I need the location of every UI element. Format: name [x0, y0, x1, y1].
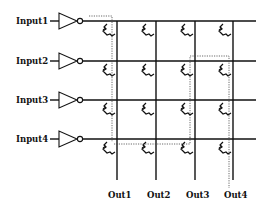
crosspoint-grid	[103, 24, 231, 154]
input-label: Input1	[16, 16, 48, 26]
input-label: Input3	[16, 95, 48, 105]
inverter-icon	[59, 53, 83, 69]
path-input2-out4	[190, 56, 229, 188]
input-label: Input2	[16, 56, 48, 66]
transistor-crosspoint-icon	[181, 64, 193, 76]
path-input4-out3	[114, 136, 190, 144]
output-label: Out4	[224, 190, 248, 200]
output-label: Out3	[186, 190, 210, 200]
output-label: Out2	[147, 190, 171, 200]
transistor-crosspoint-icon	[219, 24, 231, 36]
highlighted-paths	[89, 16, 229, 188]
transistor-crosspoint-icon	[142, 24, 154, 36]
transistor-crosspoint-icon	[142, 64, 154, 76]
inverter-icon	[59, 13, 83, 29]
transistor-crosspoint-icon	[103, 103, 115, 115]
transistor-crosspoint-icon	[181, 103, 193, 115]
transistor-crosspoint-icon	[142, 103, 154, 115]
crossbar-diagram: Input1 Input2 Input3 Input4	[0, 0, 268, 213]
output-label: Out1	[108, 190, 132, 200]
transistor-crosspoint-icon	[103, 24, 115, 36]
inverter-icon	[59, 92, 83, 108]
inverter-icon	[59, 131, 83, 147]
output-columns: Out1 Out2 Out3 Out4	[108, 21, 248, 200]
transistor-crosspoint-icon	[181, 24, 193, 36]
transistor-crosspoint-icon	[103, 142, 115, 154]
input-label: Input4	[16, 134, 48, 144]
transistor-crosspoint-icon	[103, 64, 115, 76]
